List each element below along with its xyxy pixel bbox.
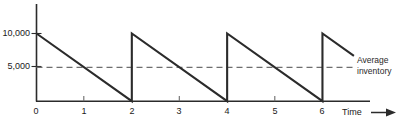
x-tick-label-1: 1 — [74, 106, 94, 116]
average-inventory-annotation-line2: inventory — [357, 66, 392, 77]
y-tick-label-10000: 10,000 — [0, 28, 30, 38]
x-axis-label: Time — [342, 107, 362, 117]
x-tick-label-3: 3 — [169, 106, 189, 116]
y-tick-label-5000: 5,000 — [0, 61, 30, 71]
average-inventory-annotation: Average inventory — [357, 55, 392, 77]
x-tick-label-4: 4 — [217, 106, 237, 116]
average-inventory-annotation-line1: Average — [357, 55, 392, 66]
inventory-sawtooth-chart: 10,000 5,000 0 1 2 3 4 5 6 Time Average … — [0, 0, 402, 127]
x-tick-label-0: 0 — [26, 106, 46, 116]
x-tick-label-6: 6 — [312, 106, 332, 116]
x-tick-label-2: 2 — [122, 106, 142, 116]
x-tick-label-5: 5 — [265, 106, 285, 116]
inventory-level-series — [37, 34, 354, 102]
time-axis-arrow-head — [386, 109, 396, 117]
